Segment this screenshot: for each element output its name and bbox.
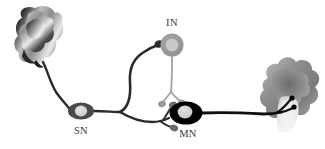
sn-nucleus (75, 106, 87, 117)
in-bouton-left (157, 100, 167, 109)
sn-bouton-lower (169, 124, 179, 133)
in-axon-fork-left (163, 92, 171, 102)
label-interneuron: IN (166, 17, 178, 28)
sn-terminal-twig-lower (160, 121, 171, 127)
mn-nucleus (178, 106, 193, 119)
sn-axon-branch-to-mn (120, 112, 169, 122)
reflex-circuit-figure: SN IN MN (0, 0, 325, 149)
label-motor-neuron: MN (179, 128, 197, 139)
in-axon-trunk (171, 57, 172, 92)
sensory-neuron-soma (68, 102, 94, 119)
mn-endplate-lower (291, 104, 296, 109)
sensory-receptor-organ (14, 6, 63, 68)
interneuron-soma (161, 34, 184, 57)
sn-dendrite-path (43, 62, 70, 110)
muscle-effector-organ (260, 57, 319, 133)
sn-axon-trunk (93, 111, 120, 112)
in-nucleus (166, 39, 179, 52)
sn-axon-collateral-to-in (120, 45, 158, 112)
mn-endplate-upper (289, 95, 294, 100)
label-sensory-neuron: SN (74, 125, 88, 136)
motor-neuron-soma (170, 102, 203, 125)
